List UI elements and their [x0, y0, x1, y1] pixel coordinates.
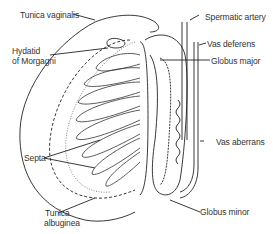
label-vas-aberrans: Vas aberrans — [216, 137, 265, 147]
testis-diagram — [0, 0, 273, 234]
vas-aberrans — [176, 100, 180, 164]
label-tunica-albuginea-line1: Tunica — [45, 208, 70, 218]
label-tunica-albuginea-line2: albuginea — [44, 218, 80, 228]
epididymis-outline — [145, 35, 187, 195]
hydatid — [107, 38, 125, 48]
label-hydatid-line1: Hydatid — [12, 46, 40, 56]
label-hydatid-line2: of Morgagni — [12, 56, 56, 66]
label-spermatic-artery: Spermatic artery — [205, 12, 266, 22]
label-globus-major: Globus major — [211, 56, 260, 66]
label-globus-minor: Globus minor — [200, 207, 249, 217]
label-septa: Septa — [24, 153, 46, 163]
label-vas-deferens: Vas deferens — [207, 39, 255, 49]
label-tunica-vaginalis: Tunica vaginalis — [20, 10, 79, 20]
